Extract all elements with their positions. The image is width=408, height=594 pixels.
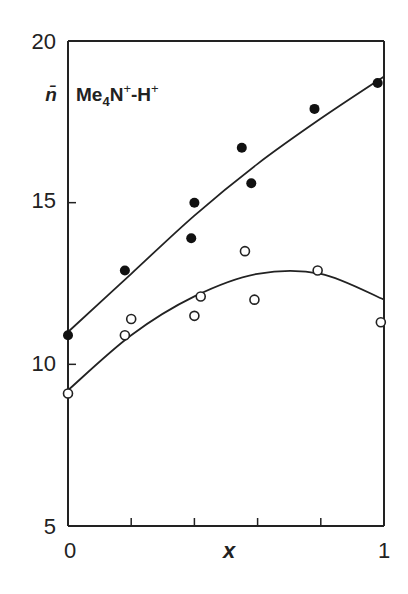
y-tick-10: 10 (32, 351, 56, 376)
filled-data-point (309, 104, 319, 114)
open-data-point (127, 315, 136, 324)
series-annotation: Me4N+-H+ (76, 81, 159, 109)
open-data-point (240, 247, 249, 256)
y-tick-5: 5 (44, 514, 56, 539)
chart: 20 15 10 5 0 1 x n̄ Me4N+-H+ (0, 0, 408, 594)
open-data-point (64, 389, 73, 398)
filled-data-point (120, 266, 130, 276)
filled-data-point (189, 198, 199, 208)
fit-curve-filled (68, 77, 384, 332)
open-data-point (190, 311, 199, 320)
axis-ticks (68, 203, 321, 526)
open-data-point (313, 266, 322, 275)
fit-curves (68, 77, 384, 391)
open-data-point (376, 318, 385, 327)
x-tick-0: 0 (64, 538, 76, 563)
x-axis-label: x (222, 538, 236, 563)
open-data-point (196, 292, 205, 301)
filled-data-point (186, 233, 196, 243)
data-points (63, 78, 385, 398)
y-axis-symbol: n̄ (45, 84, 57, 105)
y-tick-20: 20 (32, 29, 56, 54)
open-data-point (250, 295, 259, 304)
filled-data-point (373, 78, 383, 88)
x-tick-1: 1 (378, 538, 390, 563)
filled-data-point (237, 143, 247, 153)
y-tick-15: 15 (32, 188, 56, 213)
open-data-point (120, 331, 129, 340)
filled-data-point (246, 178, 256, 188)
filled-data-point (63, 330, 73, 340)
